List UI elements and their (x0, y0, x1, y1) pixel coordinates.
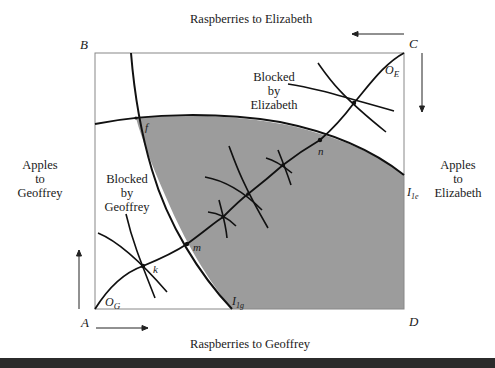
bottom-divider-bar (0, 358, 495, 368)
point-k: k (153, 263, 158, 275)
mutually-beneficial-region (136, 116, 404, 309)
corner-a: A (81, 315, 89, 331)
point-m: m (193, 241, 201, 253)
edgeworth-box-diagram (0, 0, 495, 368)
corner-b: B (80, 37, 88, 53)
right-axis-label: Apples to Elizabeth (430, 158, 486, 200)
point-n: n (318, 145, 324, 157)
label-i1e: I1e (407, 185, 419, 201)
corner-d: D (409, 314, 418, 330)
blocked-by-elizabeth-label: Blocked by Elizabeth (244, 70, 304, 112)
origin-geoffrey: OG (105, 295, 120, 311)
point-f: f (145, 121, 148, 133)
label-i1g: I1g (232, 294, 244, 310)
corner-c: C (409, 36, 418, 52)
origin-elizabeth: OE (385, 63, 399, 79)
bottom-axis-label: Raspberries to Geoffrey (190, 337, 310, 351)
left-axis-label: Apples to Geoffrey (15, 158, 65, 200)
blocked-by-geoffrey-label: Blocked by Geoffrey (99, 172, 155, 214)
top-axis-label: Raspberries to Elizabeth (190, 12, 310, 26)
